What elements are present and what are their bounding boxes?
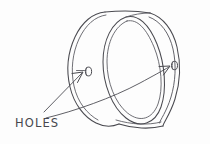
far-face-rim-inner-line bbox=[149, 17, 175, 123]
bore-opening-outer-edge bbox=[103, 16, 164, 123]
ring-sketch-drawing: HOLES bbox=[0, 0, 210, 144]
top-tangent-wall bbox=[105, 11, 150, 13]
hole-right-depth-stroke bbox=[172, 62, 173, 70]
sketch-canvas: HOLES bbox=[0, 0, 210, 144]
holes-label: HOLES bbox=[15, 116, 59, 130]
hole-left-depth-stroke bbox=[86, 68, 87, 76]
bottom-tangent-wall bbox=[119, 124, 163, 128]
leader-line-left-hole bbox=[44, 73, 82, 112]
leader-line-right-hole bbox=[46, 67, 169, 118]
